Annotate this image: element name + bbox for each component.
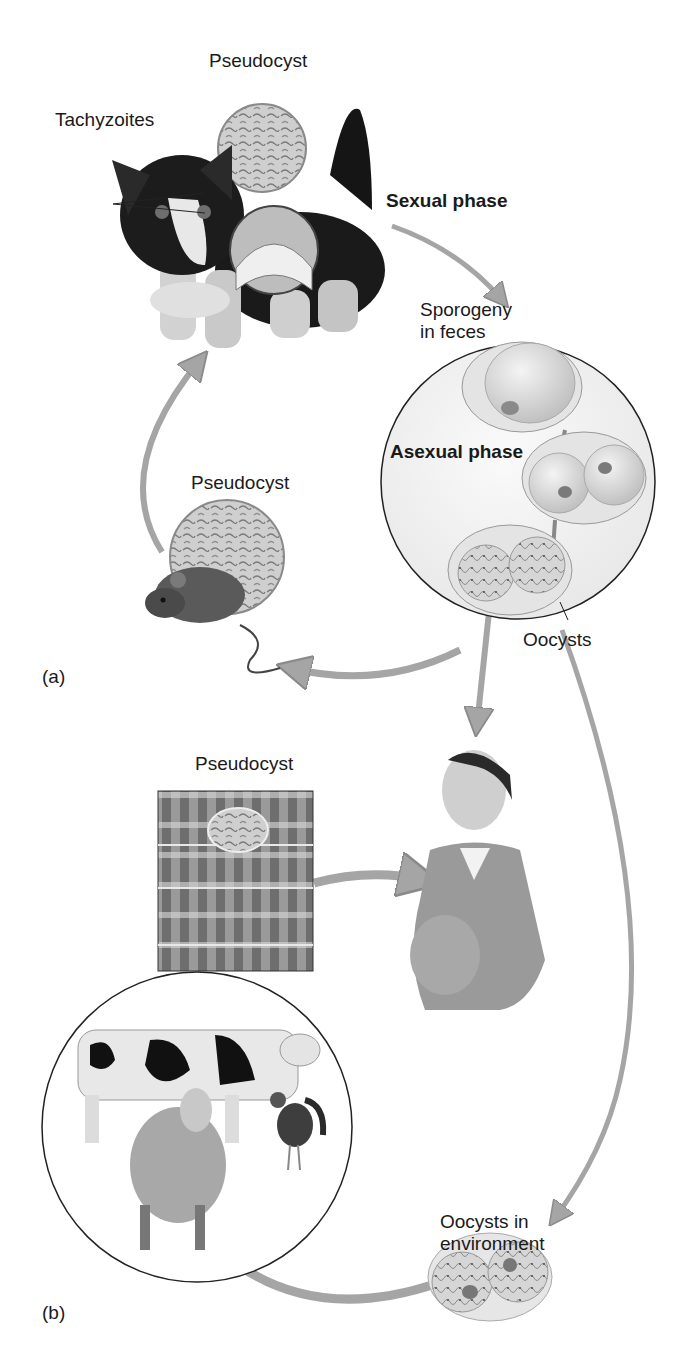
arrow-cat-to-sporogeny — [392, 226, 502, 300]
arrow-sporogeny-to-woman — [477, 612, 489, 725]
label-asexual-phase: Asexual phase — [390, 441, 523, 462]
livestock-circle — [42, 972, 352, 1282]
arrow-muscle-to-woman — [314, 875, 425, 883]
label-oocysts-env-line1: Oocysts in — [440, 1211, 529, 1232]
label-sporogeny-line2: in feces — [420, 321, 485, 342]
label-oocysts-env-line2: environment — [440, 1233, 545, 1254]
label-pseudocyst-muscle: Pseudocyst — [195, 753, 293, 774]
panel-label-a: (a) — [42, 666, 65, 687]
label-pseudocyst-mouse: Pseudocyst — [191, 472, 289, 493]
pregnant-woman-illustration — [410, 750, 545, 1010]
label-sexual-phase: Sexual phase — [386, 190, 507, 211]
arrow-oocysts-to-environment — [555, 630, 632, 1218]
label-oocysts: Oocysts — [523, 629, 592, 650]
label-pseudocyst-cat: Pseudocyst — [209, 50, 307, 71]
sporogeny-circle — [381, 342, 655, 619]
panel-label-b: (b) — [42, 1302, 65, 1323]
mouse-illustration — [145, 500, 284, 673]
cat-illustration — [112, 104, 385, 348]
label-tachyzoites: Tachyzoites — [55, 109, 154, 130]
lifecycle-diagram — [0, 0, 689, 1346]
arrow-sporogeny-to-mouse — [290, 650, 460, 676]
label-sporogeny-line1: Sporogeny — [420, 299, 512, 320]
